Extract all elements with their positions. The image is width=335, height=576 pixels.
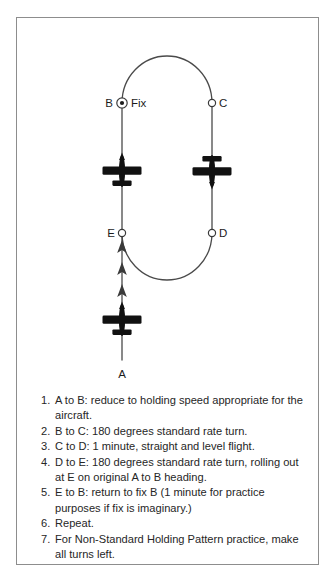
step-text: B to C: 180 degrees standard rate turn. — [55, 424, 303, 439]
list-item: 1. A to B: reduce to holding speed appro… — [41, 393, 303, 424]
waypoint-label-a: A — [118, 368, 126, 380]
list-item: 3. C to D: 1 minute, straight and level … — [41, 439, 303, 454]
holding-pattern-svg: B Fix C D E A — [0, 0, 335, 390]
aircraft-wing — [103, 316, 142, 324]
aircraft-nose — [119, 153, 125, 161]
waypoint-marker-c — [208, 99, 215, 106]
arc-d-to-e — [122, 233, 212, 280]
step-number: 7. — [41, 532, 55, 547]
step-number: 4. — [41, 455, 55, 470]
step-number: 1. — [41, 393, 55, 408]
holding-pattern-diagram: B Fix C D E A — [0, 0, 335, 390]
step-text: A to B: reduce to holding speed appropri… — [55, 393, 303, 424]
aircraft-nose — [119, 302, 125, 310]
step-text: For Non-Standard Holding Pattern practic… — [55, 532, 303, 563]
direction-arrowheads — [117, 240, 127, 297]
aircraft-horizontal-stabilizer — [112, 181, 131, 186]
page-root: B Fix C D E A 1. A to B: reduce to holdi… — [0, 0, 335, 576]
step-number: 3. — [41, 439, 55, 454]
waypoint-label-d: D — [219, 227, 227, 239]
aircraft-entry-leg — [103, 302, 142, 337]
list-item: 4. D to E: 180 degrees standard rate tur… — [41, 455, 303, 486]
steps-list: 1. A to B: reduce to holding speed appro… — [41, 393, 303, 562]
waypoint-label-b: B — [105, 97, 113, 109]
fix-center-dot-icon — [120, 101, 124, 105]
aircraft-wing — [193, 167, 232, 175]
waypoint-label-c: C — [219, 97, 227, 109]
list-item: 2. B to C: 180 degrees standard rate tur… — [41, 424, 303, 439]
waypoint-label-e: E — [107, 227, 115, 239]
instructions-list: 1. A to B: reduce to holding speed appro… — [41, 393, 303, 562]
step-number: 2. — [41, 424, 55, 439]
aircraft-wing — [103, 167, 142, 175]
waypoint-labels: B Fix C D E A — [105, 97, 227, 380]
waypoint-marker-d — [208, 229, 215, 236]
waypoint-marker-e — [118, 229, 125, 236]
waypoint-label-fix: Fix — [131, 97, 147, 109]
step-number: 6. — [41, 516, 55, 531]
step-text: C to D: 1 minute, straight and level fli… — [55, 439, 303, 454]
waypoint-marker-b-fix — [117, 98, 127, 108]
list-item: 6. Repeat. — [41, 516, 303, 531]
aircraft-nose — [209, 182, 215, 190]
step-text: Repeat. — [55, 516, 303, 531]
aircraft-outbound-leg — [193, 155, 232, 190]
list-item: 5. E to B: return to fix B (1 minute for… — [41, 485, 303, 516]
step-text: D to E: 180 degrees standard rate turn, … — [55, 455, 303, 486]
list-item: 7. For Non-Standard Holding Pattern prac… — [41, 532, 303, 563]
arc-b-to-c — [122, 56, 212, 103]
aircraft-horizontal-stabilizer — [202, 156, 221, 161]
step-text: E to B: return to fix B (1 minute for pr… — [55, 485, 303, 516]
aircraft-horizontal-stabilizer — [112, 330, 131, 335]
step-number: 5. — [41, 485, 55, 500]
aircraft-inbound-leg — [103, 153, 142, 188]
